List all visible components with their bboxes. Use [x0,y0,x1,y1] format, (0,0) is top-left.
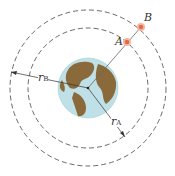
orbit-diagram [0,0,175,176]
radius-b-subscript: B [43,75,48,83]
satellite-b-icon [137,23,145,31]
radius-a-label: rA [111,116,121,127]
satellite-b-label: B [144,12,152,23]
satellite-a-label: A [115,36,123,47]
radius-b-label: rB [38,72,48,83]
satellite-a-icon [123,38,131,46]
radius-a-subscript: A [116,119,121,127]
radius-b-arrowhead-icon [11,71,17,75]
earth-center-dot [87,87,90,90]
